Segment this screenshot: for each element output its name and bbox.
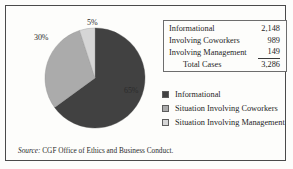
pie-label-management-percent: 5% [87,18,97,27]
legend-swatch-icon [162,91,169,98]
chart-legend: Informational Situation Involving Cowork… [162,88,293,130]
legend-item-management: Situation Involving Management [162,116,293,129]
table-cell-value: 149 [258,47,280,59]
table-cell-value: 989 [258,35,280,46]
table-row: Involving Coworkers 989 [169,35,280,46]
legend-item-label: Informational [175,90,221,99]
table-row-total: Total Cases 3,286 [169,59,280,71]
table-cell-total-value: 3,286 [258,59,280,71]
summary-table: Informational 2,148 Involving Coworkers … [163,20,287,72]
pie-chart-svg [44,27,146,129]
source-text: CGF Office of Ethics and Business Conduc… [40,146,173,155]
figure-frame: 65% 30% 5% Informational 2,148 Involving… [5,5,286,161]
table-cell-label: Involving Management [169,47,258,59]
table-cell-label: Informational [169,24,258,35]
legend-swatch-icon [162,119,169,126]
pie-label-informational-percent: 65% [124,86,138,95]
source-prefix: Source: [18,146,40,155]
table-cell-label: Involving Coworkers [169,35,258,46]
figure-panel: 65% 30% 5% Informational 2,148 Involving… [0,0,293,169]
summary-table-grid: Informational 2,148 Involving Coworkers … [169,24,280,71]
table-cell-total-label: Total Cases [169,59,258,71]
table-row: Involving Management 149 [169,47,280,59]
legend-item-coworkers: Situation Involving Coworkers [162,102,293,115]
legend-item-label: Situation Involving Management [175,118,285,127]
pie-label-coworkers-percent: 30% [34,33,48,42]
table-cell-value: 2,148 [258,24,280,35]
table-row: Informational 2,148 [169,24,280,35]
legend-item-informational: Informational [162,88,293,101]
legend-item-label: Situation Involving Coworkers [175,104,278,113]
legend-swatch-icon [162,105,169,112]
source-note: Source: CGF Office of Ethics and Busines… [18,146,173,155]
pie-chart [44,27,146,129]
